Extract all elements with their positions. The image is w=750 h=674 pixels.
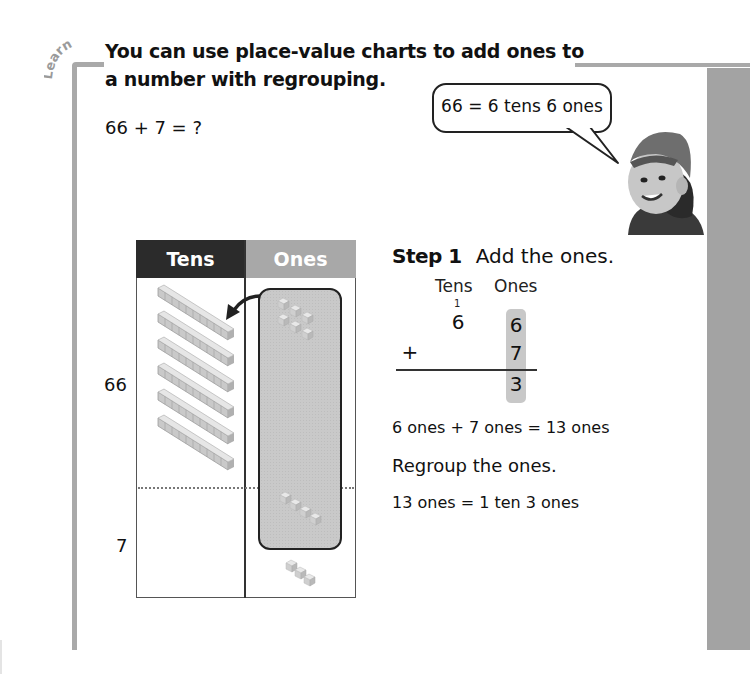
learn-bracket-side: [72, 64, 77, 650]
row-label-7: 7: [116, 535, 127, 556]
step1-label: Step 1: [392, 244, 462, 268]
svg-text:Learn: Learn: [44, 36, 74, 80]
ones-cubes: [262, 292, 336, 592]
addend1-ones-digit: 6: [506, 313, 526, 337]
problem-statement: 66 + 7 = ?: [105, 117, 202, 138]
title-underline: [575, 63, 750, 67]
regroup-equation: 13 ones = 1 ten 3 ones: [392, 493, 579, 512]
page-edge-mark: [0, 640, 2, 674]
result-ones-digit: 3: [506, 372, 526, 396]
row-label-66: 66: [104, 374, 127, 395]
plus-sign: +: [400, 340, 420, 364]
ones-column-header: Ones: [245, 240, 356, 278]
speech-bubble-text: 66 = 6 tens 6 ones: [432, 83, 612, 129]
regroup-heading: Regroup the ones.: [392, 455, 557, 476]
carry-digit: 1: [454, 298, 460, 309]
algorithm-ones-header: Ones: [494, 276, 537, 296]
ones-sum-equation: 6 ones + 7 ones = 13 ones: [392, 418, 609, 437]
step1-instruction: Add the ones.: [476, 244, 614, 268]
step1-heading: Step 1Add the ones.: [392, 244, 614, 268]
boy-photo: [608, 120, 708, 235]
tens-column-header: Tens: [136, 240, 245, 278]
page-side-strip: [707, 68, 750, 650]
addend1-tens-digit: 6: [448, 310, 468, 334]
algorithm-tens-header: Tens: [435, 276, 473, 296]
addend2-ones-digit: 7: [506, 341, 526, 365]
sum-line: [396, 369, 537, 371]
